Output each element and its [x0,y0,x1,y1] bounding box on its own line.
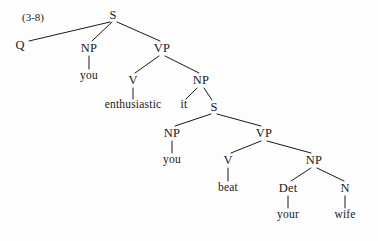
tree-node-v-n13: V [223,154,232,167]
tree-edges [0,0,378,241]
tree-node-det-n16: Det [279,182,298,195]
tree-terminal-it-n8: it [181,99,188,111]
tree-terminal-you-n12: you [163,154,181,166]
tree-terminal-you-n4: you [80,70,98,82]
tree-node-n-n17: N [340,182,349,195]
tree-node-vp-n11: VP [256,127,272,140]
tree-node-vp-n3: VP [154,42,170,55]
tree-terminal-wife-n19: wife [334,209,355,221]
tree-edge-n3-n5 [135,56,159,73]
tree-edge-n0-n1 [29,22,110,41]
tree-node-s-n9: S [210,101,217,114]
tree-edge-n14-n17 [317,168,344,181]
tree-edge-n11-n13 [231,141,261,153]
tree-node-q-n1: Q [15,39,24,52]
tree-edge-n9-n11 [217,114,261,126]
tree-node-np-n10: NP [164,127,180,140]
tree-edge-n9-n10 [175,114,211,126]
tree-edge-n11-n14 [267,141,311,153]
tree-node-np-n2: NP [81,42,97,55]
tree-terminal-enthusiastic-n7: enthusiastic [105,99,162,111]
tree-node-np-n14: NP [306,154,322,167]
syntax-tree-figure: (3-8) SQNPVPyouVNPenthusiasticitSNPVPyou… [0,0,378,241]
tree-terminal-beat-n15: beat [218,182,238,194]
tree-edge-n3-n6 [165,56,199,73]
tree-edge-n0-n3 [117,22,160,41]
tree-edge-n14-n16 [291,168,311,181]
tree-edge-n6-n9 [204,88,212,100]
tree-node-s-n0: S [109,9,116,22]
tree-edge-n0-n2 [92,22,112,41]
tree-node-v-n5: V [128,74,137,87]
tree-node-np-n6: NP [193,74,209,87]
tree-edge-n6-n8 [186,88,197,99]
tree-terminal-your-n18: your [277,209,299,221]
